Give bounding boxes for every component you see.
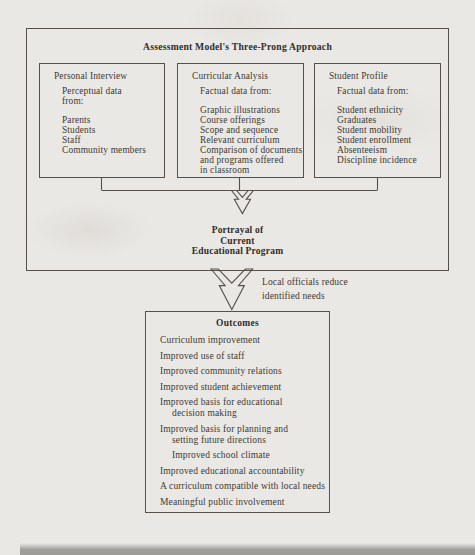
down-arrow-icon bbox=[232, 191, 254, 214]
outcome-item: Improved basis for educational bbox=[160, 397, 325, 407]
connector-line bbox=[102, 177, 378, 191]
outcome-item: A curriculum compatible with local needs bbox=[160, 481, 325, 491]
transition-note-line: Local officials reduce bbox=[262, 276, 348, 290]
outcome-item: Improved educational accountability bbox=[160, 466, 325, 476]
outcome-item: Improved use of staff bbox=[160, 351, 325, 361]
scanned-diagram-page: Assessment Model's Three-Prong Approach … bbox=[0, 0, 475, 555]
outcome-item-continuation: decision making bbox=[160, 408, 325, 418]
transition-note-line: identified needs bbox=[262, 290, 348, 304]
outcome-item: Meaningful public involvement bbox=[160, 497, 325, 507]
down-arrow-icon bbox=[211, 269, 253, 310]
outcome-item: Curriculum improvement bbox=[160, 335, 325, 345]
outcome-item: Improved basis for planning and bbox=[160, 424, 325, 434]
outcome-item-continuation: setting future directions bbox=[160, 435, 325, 445]
outcomes-title: Outcomes bbox=[146, 318, 329, 328]
outcomes-list: Curriculum improvement Improved use of s… bbox=[146, 335, 329, 507]
outcome-item: Improved community relations bbox=[160, 366, 325, 376]
transition-note: Local officials reduce identified needs bbox=[262, 276, 348, 303]
scan-artifact-band bbox=[20, 543, 475, 555]
outcome-item: Improved school climate bbox=[160, 450, 325, 460]
outcome-item: Improved student achievement bbox=[160, 382, 325, 392]
outcomes-panel: Outcomes Curriculum improvement Improved… bbox=[145, 311, 330, 513]
